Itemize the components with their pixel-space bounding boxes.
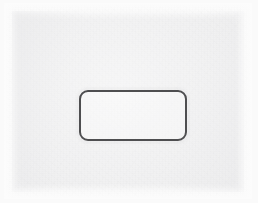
blank-rounded-rectangle-field[interactable]: [79, 90, 187, 141]
rounded-rectangle-interior: [81, 92, 185, 139]
scanned-page-canvas: Scanned paper page with blank rounded re…: [0, 0, 258, 203]
